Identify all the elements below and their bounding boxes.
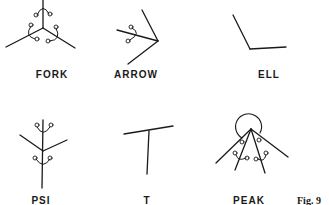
fork-label: FORK xyxy=(36,69,68,80)
psi-junction-drawing xyxy=(20,120,67,188)
figure-caption: Fig. 9 xyxy=(297,195,321,205)
junction-types-figure: FORK ARROW ELL PSI T PEAK Fig. 9 xyxy=(0,0,329,205)
junction-drawings xyxy=(0,0,329,205)
t-label: T xyxy=(143,195,150,205)
fork-junction-drawing xyxy=(6,0,75,48)
peak-label: PEAK xyxy=(233,195,265,205)
ell-label: ELL xyxy=(258,69,280,80)
arrow-label: ARROW xyxy=(114,69,158,80)
t-junction-drawing xyxy=(124,126,173,174)
psi-label: PSI xyxy=(31,195,50,205)
arrow-junction-drawing xyxy=(117,10,158,64)
peak-junction-drawing xyxy=(216,114,288,173)
ell-junction-drawing xyxy=(233,15,286,49)
